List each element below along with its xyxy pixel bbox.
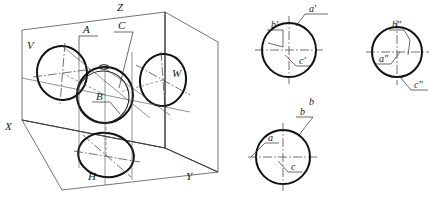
drawing-canvas: Z X Y V W H	[0, 0, 435, 206]
plane-w-outline	[165, 12, 218, 172]
label-a-doubleprime: a"	[379, 53, 389, 64]
isometric-projection-group: Z X Y V W H	[4, 1, 218, 190]
projector-v-top	[62, 46, 150, 118]
leader-b-prime-stem2	[268, 43, 283, 47]
label-axis-x: X	[4, 120, 13, 132]
front-view-group: a' b' c' b	[255, 3, 328, 107]
leader-c-prime-stem	[285, 55, 296, 66]
leader-a-prime-stem	[296, 14, 305, 26]
label-point-b: B	[96, 90, 103, 102]
top-view-group: b a c	[248, 106, 317, 191]
label-a-prime: a'	[309, 3, 317, 14]
leader-b-doubleprime: b"	[389, 19, 410, 55]
leader-a-dp-stem	[391, 52, 400, 64]
leader-c-stem	[119, 32, 133, 88]
projector-sphere-to-w	[105, 95, 190, 112]
leader-b-prime: b'	[267, 19, 283, 47]
leader-a-doubleprime: a"	[376, 52, 400, 64]
label-a-top: a	[268, 132, 273, 143]
label-axis-z: Z	[117, 1, 124, 13]
leader-b-stem	[110, 102, 120, 114]
leader-a-prime: a'	[296, 3, 328, 26]
label-plane-v: V	[27, 39, 35, 51]
leader-b-dp-stem1	[404, 30, 410, 40]
projection-circle-h	[74, 120, 140, 181]
side-view-group: b" a" c"	[366, 19, 429, 90]
label-axis-y: Y	[186, 170, 194, 182]
axis-y-line	[165, 148, 218, 172]
label-c-top: c	[291, 161, 296, 172]
circle-h-centerline-h	[74, 151, 140, 162]
leader-point-c: C	[114, 19, 133, 88]
leader-c-doubleprime: c"	[400, 77, 428, 90]
leader-c-top: c	[278, 161, 302, 172]
label-c-doubleprime: c"	[414, 79, 423, 90]
projector-diagonal-a	[103, 67, 170, 115]
projection-circle-v	[33, 43, 105, 104]
label-b-top: b	[300, 106, 305, 117]
label-view-letter-b: b	[309, 96, 314, 107]
label-point-a: A	[82, 23, 90, 35]
leader-b-top-stem	[299, 117, 313, 135]
label-b-prime: b'	[271, 19, 279, 30]
leader-point-b: B	[92, 90, 120, 114]
plane-v-outline	[22, 12, 165, 148]
leader-c-dp-stem	[400, 77, 411, 90]
leader-b-dp-stem2	[408, 40, 410, 55]
label-b-doubleprime: b"	[392, 19, 402, 30]
projector-sphere-to-v	[22, 78, 105, 95]
technical-drawing-figure: Z X Y V W H	[0, 0, 435, 206]
leader-b-top: b	[296, 106, 313, 135]
label-plane-w: W	[172, 67, 182, 79]
leader-point-a: A	[79, 23, 98, 60]
label-point-c: C	[118, 19, 126, 31]
label-c-prime: c'	[299, 55, 306, 66]
